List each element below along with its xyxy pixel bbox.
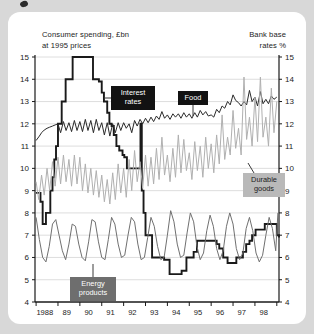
series-line-durable-goods (36, 77, 277, 204)
y-tick-label-right: 9 (285, 187, 290, 196)
y-tick-label-right: 7 (285, 231, 290, 240)
y-tick-label-right: 5 (285, 276, 290, 285)
callout-energy-products: Energy products (70, 277, 116, 301)
y-tick-label-right: 10 (285, 164, 294, 173)
plot-area: 4567891011121314154567891011121314151988… (8, 12, 306, 324)
y-tick-label-left: 11 (21, 142, 30, 151)
callout-interest-rates: Interest rates (111, 86, 155, 110)
top-strip (0, 0, 314, 10)
y-tick-label-left: 6 (25, 253, 30, 262)
x-tick-label: 91 (106, 308, 114, 317)
x-tick-label: 90 (84, 308, 92, 317)
x-tick-label: 96 (216, 308, 224, 317)
callout-interest-rates-line1: Interest (115, 88, 151, 97)
y-tick-label-right: 13 (285, 97, 294, 106)
callout-food-line1: Food (182, 93, 204, 102)
y-tick-label-left: 10 (20, 164, 29, 173)
callout-energy-products-line1: Energy (74, 279, 112, 288)
series-line-food (36, 90, 277, 140)
callout-durable-goods-line1: Durable (247, 175, 281, 184)
y-tick-label-left: 4 (25, 298, 30, 307)
x-tick-label: 98 (259, 308, 267, 317)
callout-energy-products-line2: products (74, 288, 112, 297)
y-tick-label-left: 8 (25, 209, 30, 218)
y-tick-label-left: 15 (20, 53, 29, 62)
x-tick-label: 1988 (36, 308, 53, 317)
y-tick-label-left: 13 (20, 97, 29, 106)
y-tick-label-right: 14 (285, 75, 294, 84)
callout-interest-rates-line2: rates (115, 97, 151, 106)
screenshot-root: Consumer spending, £bn at 1995 prices Ba… (0, 0, 314, 334)
x-tick-label: 92 (128, 308, 136, 317)
y-tick-label-left: 12 (20, 120, 29, 129)
y-tick-label-right: 15 (285, 53, 294, 62)
callout-durable-goods-line2: goods (247, 184, 281, 193)
y-tick-label-left: 14 (20, 75, 29, 84)
callout-durable-goods: Durable goods (243, 173, 285, 197)
x-tick-label: 89 (63, 308, 71, 317)
y-tick-label-left: 5 (25, 276, 30, 285)
y-tick-label-left: 9 (25, 187, 30, 196)
y-tick-label-right: 4 (285, 298, 290, 307)
line-chart: 4567891011121314154567891011121314151988… (8, 12, 306, 324)
callout-food: Food (178, 91, 208, 105)
x-tick-label: 95 (194, 308, 202, 317)
chart-card: Consumer spending, £bn at 1995 prices Ba… (8, 12, 306, 324)
x-tick-label: 94 (172, 308, 180, 317)
y-tick-label-right: 8 (285, 209, 290, 218)
x-tick-label: 93 (150, 308, 158, 317)
y-tick-label-right: 6 (285, 253, 290, 262)
series-line-energy-products (36, 211, 278, 262)
x-tick-label: 97 (238, 308, 246, 317)
y-tick-label-right: 12 (285, 120, 294, 129)
y-tick-label-left: 7 (25, 231, 30, 240)
y-tick-label-right: 11 (285, 142, 294, 151)
